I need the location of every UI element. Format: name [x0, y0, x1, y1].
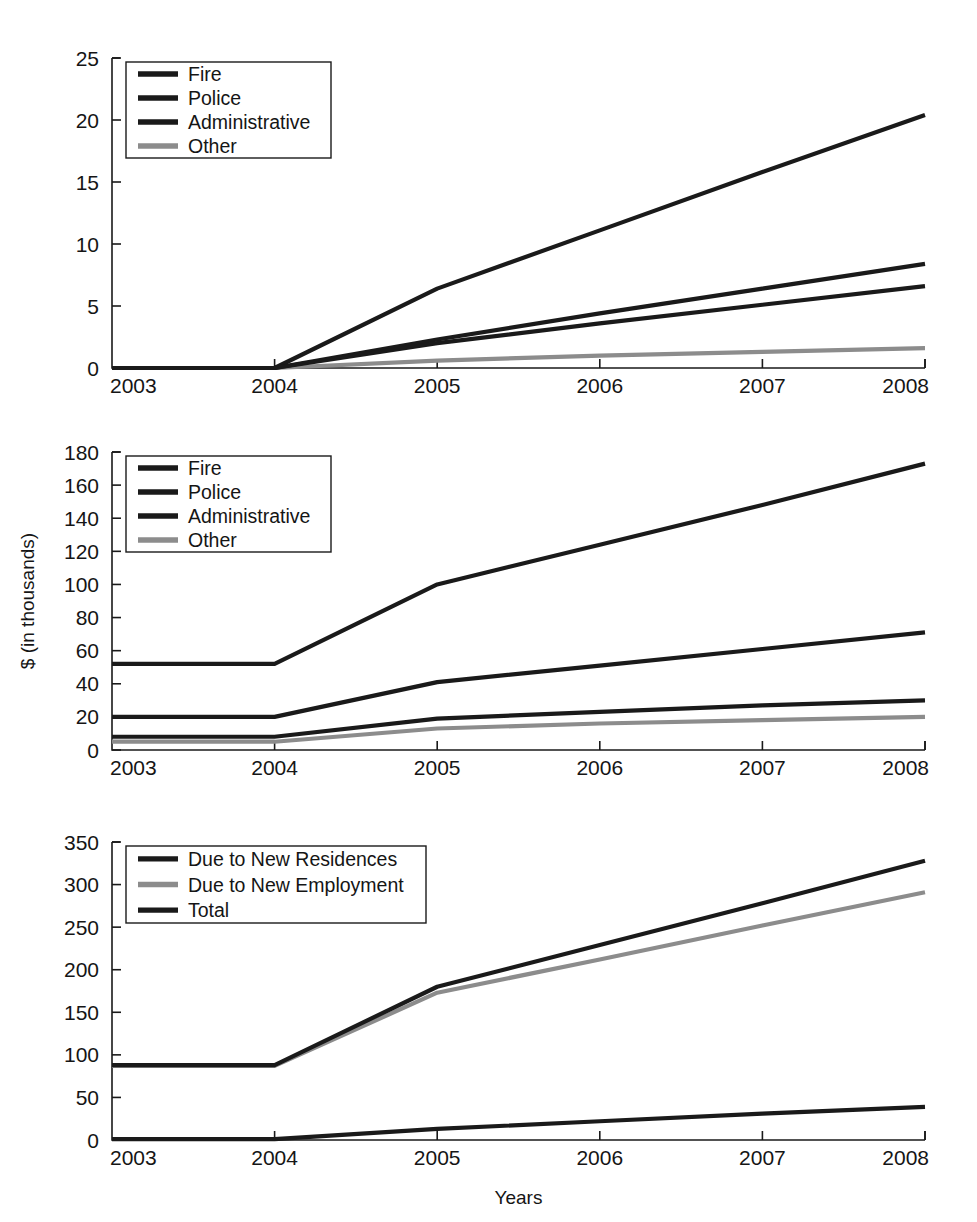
y-tick-label: 50	[76, 1086, 99, 1109]
x-tick-label: 2005	[414, 756, 461, 779]
x-tick-labels-top: 200320042005200620072008	[110, 374, 929, 397]
series-line	[112, 1107, 925, 1139]
x-tick-label: 2007	[739, 756, 786, 779]
y-tick-label: 0	[87, 1129, 99, 1152]
chart-svg-top: 0510152025 200320042005200620072008 Fire…	[0, 0, 977, 400]
y-tick-label: 250	[64, 916, 99, 939]
x-tick-label: 2006	[576, 1146, 623, 1169]
x-tick-label: 2004	[251, 756, 298, 779]
x-tick-label: 2006	[576, 756, 623, 779]
y-tick-label: 180	[64, 441, 99, 464]
x-tick-label: 2003	[110, 1146, 157, 1169]
legend-middle: FirePoliceAdministrativeOther	[126, 456, 331, 552]
chart-svg-bottom: 050100150200250300350 200320042005200620…	[0, 800, 977, 1222]
y-tick-label: 300	[64, 873, 99, 896]
y-tick-label: 160	[64, 474, 99, 497]
y-tick-label: 150	[64, 1001, 99, 1024]
legend-label: Police	[188, 87, 241, 109]
y-tick-label: 25	[76, 47, 99, 70]
legend-bottom: Due to New ResidencesDue to New Employme…	[126, 846, 426, 923]
y-tick-label: 20	[76, 705, 99, 728]
y-axis-label: $ (in thousands)	[17, 533, 38, 669]
legend-label: Administrative	[188, 111, 310, 133]
y-tick-label: 0	[87, 739, 99, 762]
legend-label: Other	[188, 529, 237, 551]
y-tick-label: 350	[64, 831, 99, 854]
chart-panel-top: 0510152025 200320042005200620072008 Fire…	[0, 0, 977, 400]
x-axis-label: Years	[495, 1187, 543, 1208]
y-tick-labels-bottom: 050100150200250300350	[64, 831, 99, 1152]
legend-label: Fire	[188, 457, 222, 479]
x-tick-label: 2004	[251, 1146, 298, 1169]
y-tick-label: 120	[64, 540, 99, 563]
x-tick-label: 2003	[110, 756, 157, 779]
chart-panel-bottom: 050100150200250300350 200320042005200620…	[0, 800, 977, 1222]
x-tick-labels-bottom: 200320042005200620072008	[110, 1146, 929, 1169]
x-tick-labels-middle: 200320042005200620072008	[110, 756, 929, 779]
y-tick-labels-middle: 020406080100120140160180	[64, 441, 99, 762]
x-tick-label: 2008	[882, 374, 929, 397]
legend-top: FirePoliceAdministrativeOther	[126, 62, 331, 158]
chart-panel-middle: 020406080100120140160180 200320042005200…	[0, 400, 977, 800]
y-tick-label: 60	[76, 639, 99, 662]
y-tick-label: 5	[87, 295, 99, 318]
legend-label: Other	[188, 135, 237, 157]
x-tick-label: 2008	[882, 756, 929, 779]
y-tick-label: 10	[76, 233, 99, 256]
legend-label: Police	[188, 481, 241, 503]
y-tick-label: 100	[64, 1043, 99, 1066]
y-tick-labels-top: 0510152025	[76, 47, 99, 380]
y-tick-label: 0	[87, 357, 99, 380]
legend-label: Total	[188, 899, 229, 921]
series-line	[112, 348, 925, 368]
y-tick-label: 200	[64, 958, 99, 981]
legend-label: Administrative	[188, 505, 310, 527]
y-tick-label: 80	[76, 606, 99, 629]
legend-label: Fire	[188, 63, 222, 85]
x-tick-label: 2005	[414, 374, 461, 397]
x-tick-label: 2007	[739, 1146, 786, 1169]
x-tick-label: 2003	[110, 374, 157, 397]
x-tick-label: 2004	[251, 374, 298, 397]
x-tick-label: 2007	[739, 374, 786, 397]
y-tick-label: 20	[76, 109, 99, 132]
x-tick-label: 2006	[576, 374, 623, 397]
legend-label: Due to New Residences	[188, 848, 397, 870]
multi-panel-line-chart-figure: 0510152025 200320042005200620072008 Fire…	[0, 0, 977, 1222]
legend-label: Due to New Employment	[188, 874, 404, 896]
x-tick-label: 2005	[414, 1146, 461, 1169]
chart-svg-middle: 020406080100120140160180 200320042005200…	[0, 400, 977, 800]
y-tick-label: 140	[64, 507, 99, 530]
x-tick-label: 2008	[882, 1146, 929, 1169]
y-tick-label: 15	[76, 171, 99, 194]
y-tick-label: 40	[76, 672, 99, 695]
y-tick-label: 100	[64, 573, 99, 596]
